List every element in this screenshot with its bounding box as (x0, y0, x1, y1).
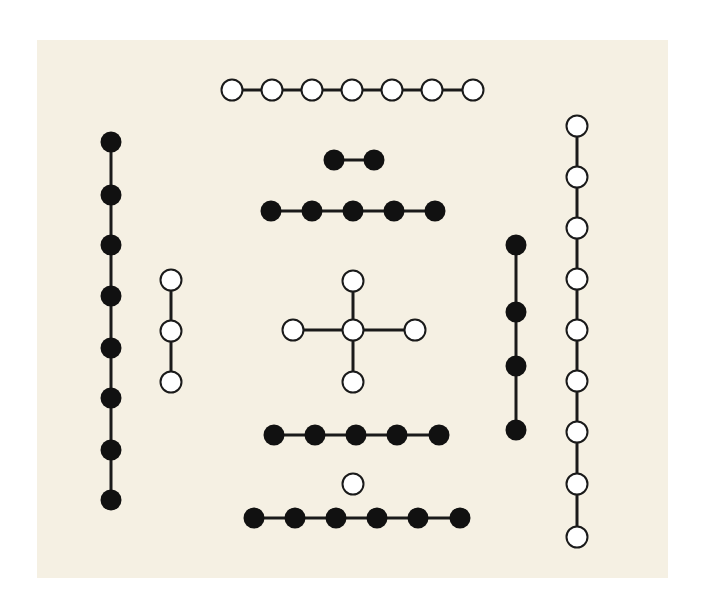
black-dot-icon (429, 425, 450, 446)
white-dot-icon (343, 474, 364, 495)
black-dot-icon (506, 356, 527, 377)
white-dot-icon (161, 321, 182, 342)
dot-group-bottom-white-1 (343, 474, 364, 495)
white-dot-icon (343, 320, 364, 341)
black-dot-icon (326, 508, 347, 529)
black-dot-icon (450, 508, 471, 529)
white-dot-icon (567, 167, 588, 188)
black-dot-icon (101, 235, 122, 256)
black-dot-icon (101, 286, 122, 307)
black-dot-icon (364, 150, 385, 171)
dot-group-lower-black-5 (264, 425, 450, 446)
white-dot-icon (567, 218, 588, 239)
white-dot-icon (283, 320, 304, 341)
black-dot-icon (408, 508, 429, 529)
white-dot-icon (567, 116, 588, 137)
black-dot-icon (285, 508, 306, 529)
black-dot-icon (305, 425, 326, 446)
white-dot-icon (567, 371, 588, 392)
dot-group-top-black-2 (324, 150, 385, 171)
dot-group-upper-black-5 (261, 201, 446, 222)
black-dot-icon (302, 201, 323, 222)
black-dot-icon (346, 425, 367, 446)
dot-group-center-white-5-cross (283, 271, 426, 393)
black-dot-icon (384, 201, 405, 222)
white-dot-icon (343, 271, 364, 292)
dot-group-right-black-4 (506, 235, 527, 441)
dot-group-left-white-3 (161, 270, 182, 393)
black-dot-icon (101, 490, 122, 511)
white-dot-icon (567, 474, 588, 495)
black-dot-icon (264, 425, 285, 446)
dot-group-bottom-black-6 (244, 508, 471, 529)
white-dot-icon (405, 320, 426, 341)
black-dot-icon (244, 508, 265, 529)
black-dot-icon (261, 201, 282, 222)
black-dot-icon (101, 388, 122, 409)
white-dot-icon (222, 80, 243, 101)
black-dot-icon (506, 302, 527, 323)
hetu-diagram (0, 0, 702, 607)
white-dot-icon (343, 372, 364, 393)
black-dot-icon (101, 185, 122, 206)
black-dot-icon (387, 425, 408, 446)
black-dot-icon (101, 440, 122, 461)
black-dot-icon (506, 235, 527, 256)
dot-group-right-white-9 (567, 116, 588, 548)
black-dot-icon (324, 150, 345, 171)
white-dot-icon (422, 80, 443, 101)
white-dot-icon (567, 422, 588, 443)
white-dot-icon (463, 80, 484, 101)
black-dot-icon (343, 201, 364, 222)
dot-group-left-black-8 (101, 132, 122, 511)
white-dot-icon (342, 80, 363, 101)
white-dot-icon (161, 270, 182, 291)
white-dot-icon (567, 269, 588, 290)
black-dot-icon (506, 420, 527, 441)
white-dot-icon (161, 372, 182, 393)
black-dot-icon (425, 201, 446, 222)
black-dot-icon (101, 132, 122, 153)
white-dot-icon (382, 80, 403, 101)
white-dot-icon (302, 80, 323, 101)
black-dot-icon (367, 508, 388, 529)
white-dot-icon (262, 80, 283, 101)
dot-group-top-white-7 (222, 80, 484, 101)
white-dot-icon (567, 527, 588, 548)
black-dot-icon (101, 338, 122, 359)
white-dot-icon (567, 320, 588, 341)
